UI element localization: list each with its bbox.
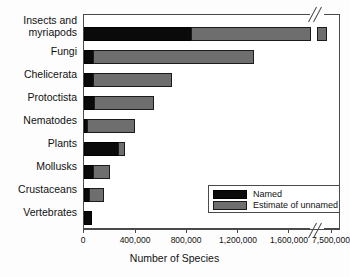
x-tick-label-7500k: 7,500,000 xyxy=(312,235,350,245)
bar-row-mollusks xyxy=(84,165,340,179)
category-label-nematodes: Nematodes xyxy=(23,115,77,127)
x-tick-400k xyxy=(135,229,136,233)
x-tick-1600k xyxy=(288,229,289,233)
bar-segment-named xyxy=(84,27,192,41)
bar-segment-unnamed xyxy=(89,188,104,202)
category-label-vertebrates: Vertebrates xyxy=(23,207,77,219)
bar-segment-unnamed xyxy=(94,96,154,110)
bar-segment-unnamed xyxy=(93,165,110,179)
x-tick-label-400k: 400,000 xyxy=(120,235,151,245)
x-tick-label-1600k: 1,600,000 xyxy=(270,235,308,245)
x-axis-title: Number of Species xyxy=(0,252,349,264)
x-tick-1200k xyxy=(237,229,238,233)
axis-break-gap xyxy=(311,26,317,43)
x-tick-800k xyxy=(186,229,187,233)
named-swatch-icon xyxy=(213,190,247,199)
bar-row-plants xyxy=(84,142,340,156)
bar-segment-named xyxy=(84,142,119,156)
category-label-protoctista: Protoctista xyxy=(27,92,77,104)
bar-row-nematodes xyxy=(84,119,340,133)
legend-label-named: Named xyxy=(253,189,282,200)
bar-segment-unnamed xyxy=(93,73,172,87)
category-label-mollusks: Mollusks xyxy=(36,161,77,173)
bar-row-chelicerata xyxy=(84,73,340,87)
category-label-insects-and-myriapods: Insects and myriapods xyxy=(23,15,77,38)
bar-row-fungi xyxy=(84,50,340,64)
x-tick-7500k xyxy=(331,229,332,233)
x-tick-0 xyxy=(83,229,84,233)
bar-row-vertebrates xyxy=(84,211,340,225)
x-tick-label-1200k: 1,200,000 xyxy=(219,235,257,245)
bar-segment-unnamed xyxy=(118,142,125,156)
bar-segment-unnamed xyxy=(93,50,254,64)
category-label-crustaceans: Crustaceans xyxy=(18,184,77,196)
x-tick-label-0: 0 xyxy=(81,235,86,245)
y-axis-category-labels: Insects and myriapods Fungi Chelicerata … xyxy=(0,14,80,229)
category-label-chelicerata: Chelicerata xyxy=(24,69,77,81)
bar-segment-named xyxy=(84,211,92,225)
axis-break-mask-top xyxy=(310,12,324,16)
category-label-plants: Plants xyxy=(48,138,77,150)
category-label-fungi: Fungi xyxy=(51,46,77,58)
bar-segment-unnamed xyxy=(87,119,135,133)
x-tick-label-800k: 800,000 xyxy=(171,235,202,245)
bar-row-protoctista xyxy=(84,96,340,110)
x-axis-line xyxy=(83,229,340,230)
bar-row-insects-and-myriapods xyxy=(84,27,340,41)
unnamed-swatch-icon xyxy=(213,201,247,210)
bar-segment-unnamed xyxy=(191,27,311,41)
chart-legend: Named Estimate of unnamed xyxy=(208,185,340,213)
legend-label-unnamed: Estimate of unnamed xyxy=(253,200,338,211)
bar-segment-unnamed-after-break xyxy=(317,27,327,41)
